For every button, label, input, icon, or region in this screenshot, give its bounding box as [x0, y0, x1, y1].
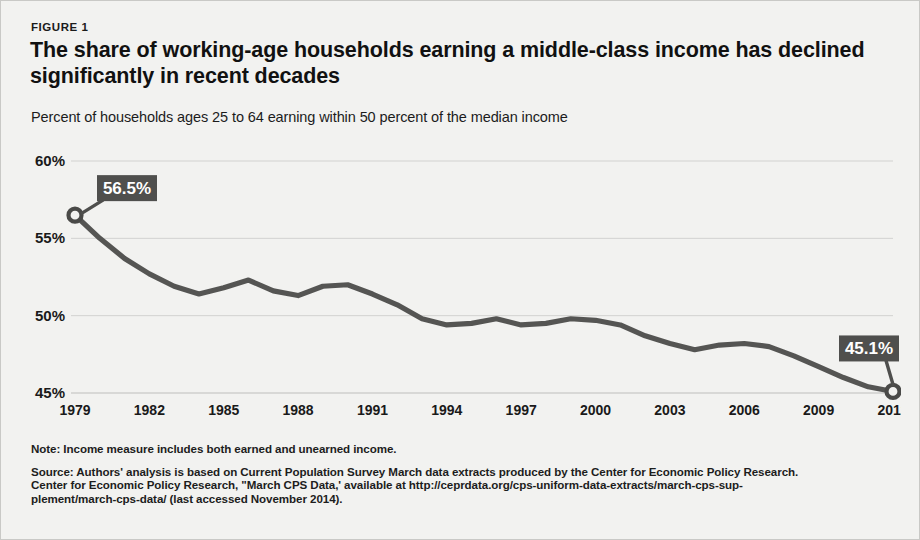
- source-text-line-1: Source: Authors' analysis is based on Cu…: [31, 465, 899, 479]
- x-axis-tick-label: 1979: [59, 402, 90, 418]
- x-axis-tick-label: 2003: [654, 402, 685, 418]
- x-axis-tick-label: 1997: [506, 402, 537, 418]
- data-series-line: [75, 215, 893, 391]
- y-axis-tick-label: 45%: [35, 384, 65, 401]
- figure-label: FIGURE 1: [31, 21, 88, 33]
- x-axis-tick-label: 2009: [803, 402, 834, 418]
- note-text: Note: Income measure includes both earne…: [31, 442, 899, 456]
- data-point-marker: [69, 209, 82, 222]
- endpoint-markers-group: [69, 209, 900, 398]
- x-axis-tick-label: 1991: [357, 402, 388, 418]
- x-axis-tick-label: 2006: [729, 402, 760, 418]
- figure-background: FIGURE 1 The share of working-age househ…: [1, 1, 919, 539]
- gridlines-group: [71, 161, 893, 393]
- source-text-line-3: plement/march-cps-data/ (last accessed N…: [31, 492, 899, 506]
- page-title: The share of working-age households earn…: [30, 37, 892, 89]
- x-axis-labels-group: 1979198219851988199119941997200020032006…: [59, 402, 901, 418]
- y-axis-tick-label: 55%: [35, 229, 65, 246]
- source-text-line-2: Center for Economic Policy Research, "Ma…: [31, 478, 899, 492]
- callout-leader-line: [82, 200, 103, 213]
- x-axis-tick-label: 1994: [431, 402, 462, 418]
- x-axis-tick-label: 2012: [877, 402, 901, 418]
- x-axis-tick-label: 1985: [208, 402, 239, 418]
- value-callout-label: 56.5%: [103, 179, 151, 198]
- x-axis-tick-label: 2000: [580, 402, 611, 418]
- callout-leader-line: [886, 360, 893, 384]
- chart-svg: 45%50%55%60% 197919821985198819911994199…: [23, 143, 901, 433]
- x-axis-tick-label: 1988: [283, 402, 314, 418]
- footnotes: Note: Income measure includes both earne…: [31, 442, 899, 505]
- x-axis-tick-label: 1982: [134, 402, 165, 418]
- y-axis-tick-label: 50%: [35, 307, 65, 324]
- value-callout-label: 45.1%: [845, 339, 893, 358]
- y-axis-labels-group: 45%50%55%60%: [35, 152, 65, 401]
- data-point-marker: [887, 385, 900, 398]
- y-axis-tick-label: 60%: [35, 152, 65, 169]
- value-callouts-group: 56.5%45.1%: [82, 175, 899, 384]
- line-chart: 45%50%55%60% 197919821985198819911994199…: [23, 143, 901, 433]
- figure-card: FIGURE 1 The share of working-age househ…: [0, 0, 920, 540]
- figure-subtitle: Percent of households ages 25 to 64 earn…: [31, 109, 893, 125]
